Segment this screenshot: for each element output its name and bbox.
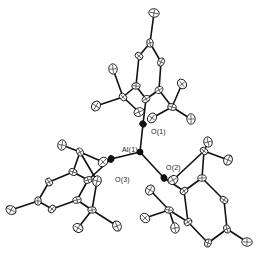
atom-c13 [175,77,188,90]
bond [202,151,204,178]
atom-c20 [47,204,57,215]
atom-c2 [132,82,141,89]
atom-c42 [138,211,151,224]
atoms [5,8,253,248]
bond [111,152,140,159]
atom-c19 [35,197,42,206]
bond [184,191,188,222]
bond [140,124,143,152]
bond [136,56,139,86]
atom-c38 [203,136,214,148]
atom-c22 [5,204,18,216]
atom-c27 [71,222,84,234]
label-o3: O(3) [115,176,130,183]
atom-c28 [111,220,123,233]
atom-c41 [164,206,173,214]
atom-c43 [170,222,180,233]
bond [188,222,208,243]
atom-c39 [222,154,234,167]
label-o1: O(1) [151,128,166,135]
atom-c31 [198,175,207,182]
atom-c9 [108,63,117,74]
atom-c5 [156,57,165,67]
atom-c10 [90,99,103,112]
bonds [11,13,247,243]
atom-o1 [138,120,147,129]
atom-c18 [44,177,54,188]
bond [140,152,164,178]
atom-c24 [57,139,67,151]
atom-c15 [146,111,159,124]
atom-c29 [92,175,103,187]
label-al1: Al(1) [122,146,138,153]
atom-c14 [187,114,196,125]
atom-c7 [148,8,160,18]
atom-o2 [160,174,168,182]
atom-c36 [242,238,253,247]
atom-c23 [75,147,85,157]
molecule-diagram [0,0,258,262]
label-o2: O(2) [166,164,181,171]
bond [202,178,224,200]
atom-c33 [223,224,232,234]
atom-c25 [96,155,109,168]
atom-c17 [68,168,78,177]
